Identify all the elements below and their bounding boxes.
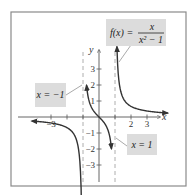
- function-numerator: x: [149, 21, 155, 32]
- x-tick-label: 2: [129, 119, 134, 129]
- asymptote-right-label: x = 1: [130, 139, 152, 150]
- y-tick-label: 1: [91, 96, 96, 106]
- function-lhs: f(x) =: [110, 27, 133, 39]
- y-tick-label: −2: [85, 144, 95, 154]
- y-tick-label: −1: [85, 128, 95, 138]
- function-denominator: x² − 1: [138, 34, 163, 45]
- x-tick-label: 3: [145, 119, 150, 129]
- asymptote-left-label: x = −1: [36, 89, 65, 100]
- y-tick-label: −3: [85, 160, 95, 170]
- y-tick-label: 3: [91, 64, 96, 74]
- y-axis-label: y: [88, 44, 94, 55]
- rational-function-graph: xy −323321−1−2−3 f(x) = x x² − 1 x = −1 …: [0, 0, 196, 195]
- y-tick-label: 2: [91, 80, 96, 90]
